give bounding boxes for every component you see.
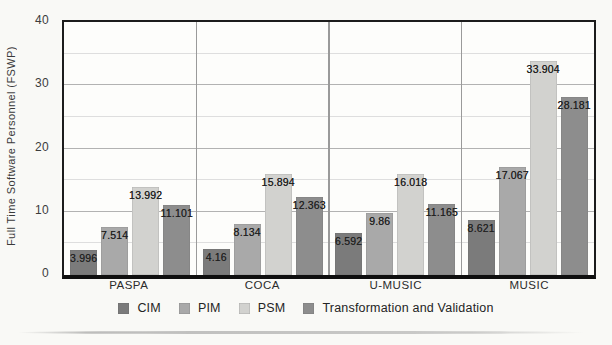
bar-value-label: 13.992 — [129, 189, 162, 201]
bar: 8.621 — [468, 220, 495, 275]
bar: 15.894 — [265, 174, 292, 275]
group-divider — [196, 22, 198, 275]
plot-area: 3.9967.51413.99211.1014.168.13415.89412.… — [62, 20, 596, 279]
bar: 6.592 — [335, 233, 362, 275]
bar-value-label: 4.16 — [206, 251, 227, 263]
legend: CIMPIMPSMTransformation and Validation — [0, 301, 612, 315]
legend-label: CIM — [137, 301, 161, 315]
x-tick-label: MUSIC — [463, 279, 597, 291]
bar-value-label: 28.181 — [558, 99, 591, 111]
bar-value-label: 12.363 — [293, 199, 326, 211]
bar-value-label: 8.134 — [234, 226, 261, 238]
y-tick-label: 10 — [35, 202, 49, 218]
bar-group-music: 8.62117.06733.90428.181 — [462, 22, 595, 275]
bar-value-label: 3.996 — [70, 252, 97, 264]
legend-swatch-icon — [239, 303, 250, 314]
legend-item: Transformation and Validation — [303, 301, 493, 315]
bar: 4.16 — [203, 249, 230, 275]
bar: 13.992 — [132, 187, 159, 275]
bar: 17.067 — [499, 167, 526, 275]
legend-swatch-icon — [118, 303, 129, 314]
bar-group-coca: 4.168.13415.89412.363 — [197, 22, 330, 275]
scan-shadow-line — [18, 331, 584, 334]
x-tick-label: U-MUSIC — [329, 279, 463, 291]
bar-chart-figure: Full Time Software Personnel (FSWP) 0102… — [0, 0, 612, 345]
bar-value-label: 11.165 — [425, 206, 458, 218]
group-divider — [461, 22, 463, 275]
y-tick-label: 20 — [35, 139, 49, 155]
x-tick-label: COCA — [196, 279, 330, 291]
bar: 3.996 — [70, 250, 97, 275]
y-tick-label: 30 — [35, 75, 49, 91]
x-tick-label: PASPA — [62, 279, 196, 291]
bar: 8.134 — [234, 224, 261, 275]
bar-value-label: 11.101 — [160, 207, 193, 219]
bar-value-label: 8.621 — [468, 222, 495, 234]
bar: 11.101 — [163, 205, 190, 275]
bar-group-u-music: 6.5929.8616.01811.165 — [329, 22, 462, 275]
bar-value-label: 33.904 — [527, 63, 560, 75]
bar: 12.363 — [296, 197, 323, 275]
bar: 28.181 — [561, 97, 588, 275]
bar-value-label: 16.018 — [394, 176, 427, 188]
group-divider — [328, 22, 330, 275]
bar-group-paspa: 3.9967.51413.99211.101 — [64, 22, 197, 275]
bar-value-label: 9.86 — [369, 215, 390, 227]
bar-value-label: 6.592 — [335, 235, 362, 247]
legend-label: PIM — [198, 301, 221, 315]
bar: 11.165 — [428, 204, 455, 275]
bar-value-label: 17.067 — [496, 169, 529, 181]
bar: 7.514 — [101, 227, 128, 275]
legend-item: CIM — [118, 301, 161, 315]
bar-value-label: 15.894 — [262, 176, 295, 188]
y-tick-label: 40 — [35, 12, 49, 28]
y-tick-label: 0 — [42, 265, 49, 281]
legend-label: Transformation and Validation — [322, 301, 493, 315]
bar: 33.904 — [530, 61, 557, 275]
legend-item: PSM — [239, 301, 286, 315]
bar: 9.86 — [366, 213, 393, 275]
bar-value-label: 7.514 — [101, 229, 128, 241]
legend-swatch-icon — [179, 303, 190, 314]
x-axis-labels: PASPACOCAU-MUSICMUSIC — [62, 279, 596, 291]
legend-label: PSM — [258, 301, 286, 315]
legend-swatch-icon — [303, 303, 314, 314]
y-axis-ticks: 010203040 — [0, 20, 56, 273]
legend-item: PIM — [179, 301, 221, 315]
bar: 16.018 — [397, 174, 424, 275]
